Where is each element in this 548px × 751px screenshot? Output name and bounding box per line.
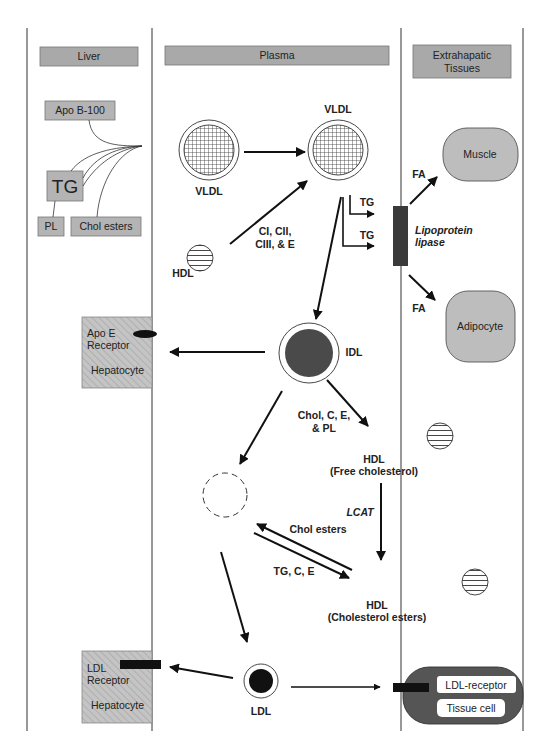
- arrow-fa-muscle: [410, 177, 437, 204]
- arrow-fa-adipocyte: [409, 275, 435, 300]
- svg-text:Tissue cell: Tissue cell: [446, 702, 495, 714]
- svg-text:lipase: lipase: [415, 236, 445, 248]
- svg-text:LDL: LDL: [251, 705, 272, 717]
- idl-transfer-label: Chol, C, E, & PL: [298, 409, 351, 434]
- svg-text:(Free cholesterol): (Free cholesterol): [330, 465, 418, 477]
- vldl-mature: VLDL: [308, 103, 368, 180]
- lcat-label: LCAT: [346, 506, 375, 518]
- lipoprotein-metabolism-diagram: Liver Plasma Extrahapatic Tissues Apo B-…: [0, 0, 548, 751]
- apo-transfer-label: CI, CII, CIII, & E: [255, 225, 295, 250]
- tg-box: TG: [47, 171, 83, 201]
- svg-text:(Cholesterol esters): (Cholesterol esters): [328, 611, 427, 623]
- svg-text:LDL-receptor: LDL-receptor: [445, 679, 507, 691]
- muscle-cell: Muscle: [443, 128, 518, 181]
- chol-esters-box: Chol esters: [71, 217, 141, 236]
- vldl-nascent: VLDL: [179, 120, 239, 197]
- arrow-dashed-to-ldl: [221, 552, 247, 642]
- svg-text:Hepatocyte: Hepatocyte: [91, 699, 144, 711]
- apoe-receptor-icon: [133, 330, 157, 338]
- column-header-extrahepatic: Extrahapatic Tissues: [413, 45, 511, 78]
- svg-text:TG: TG: [360, 196, 375, 208]
- arrow-ldl-to-hepatocyte: [170, 667, 233, 678]
- svg-text:Apo B-100: Apo B-100: [55, 104, 105, 116]
- ldl-receptor-icon: [120, 660, 161, 669]
- hdl-free-cholesterol: HDL (Free cholesterol): [330, 423, 453, 477]
- arrow-idl-to-dashed: [240, 391, 282, 464]
- svg-text:Receptor: Receptor: [87, 674, 130, 686]
- svg-text:Hepatocyte: Hepatocyte: [91, 364, 144, 376]
- ldl-particle: LDL: [244, 664, 278, 717]
- svg-text:Receptor: Receptor: [87, 339, 130, 351]
- hdl-donor: HDL: [172, 245, 213, 279]
- hdl-cholesterol-esters: HDL (Cholesterol esters): [328, 569, 488, 623]
- adipocyte-cell: Adipocyte: [446, 291, 515, 362]
- apoe-receptor-hepatocyte: Apo E Receptor Hepatocyte: [82, 317, 157, 388]
- svg-text:Lipoprotein: Lipoprotein: [415, 224, 473, 236]
- svg-text:HDL: HDL: [172, 267, 194, 279]
- dashed-particle: [203, 473, 247, 517]
- tissue-cell: LDL-receptor Tissue cell: [393, 667, 523, 724]
- svg-text:PL: PL: [45, 220, 58, 232]
- assembly-curves: [53, 120, 142, 217]
- svg-text:TG: TG: [360, 229, 375, 241]
- apo-b100-box: Apo B-100: [45, 101, 115, 120]
- svg-text:& PL: & PL: [312, 422, 337, 434]
- svg-text:Chol esters: Chol esters: [79, 220, 132, 232]
- svg-text:CIII, & E: CIII, & E: [255, 238, 295, 250]
- svg-text:IDL: IDL: [346, 346, 364, 358]
- column-header-liver: Liver: [40, 47, 138, 66]
- svg-text:Liver: Liver: [78, 50, 101, 62]
- ldl-receptor-hepatocyte: LDL Receptor Hepatocyte: [82, 651, 161, 723]
- svg-text:Chol, C, E,: Chol, C, E,: [298, 409, 351, 421]
- tg-release: TG TG: [343, 195, 374, 246]
- svg-text:Tissues: Tissues: [444, 62, 480, 74]
- chol-esters-transfer-label: Chol esters: [289, 523, 346, 535]
- svg-text:Extrahapatic: Extrahapatic: [433, 49, 491, 61]
- svg-text:VLDL: VLDL: [324, 103, 352, 115]
- idl-particle: IDL: [279, 323, 363, 383]
- tissue-ldl-receptor-icon: [393, 683, 429, 692]
- svg-text:Adipocyte: Adipocyte: [457, 320, 503, 332]
- svg-text:HDL: HDL: [366, 599, 388, 611]
- svg-text:Apo E: Apo E: [87, 327, 116, 339]
- fa-label-1: FA: [412, 168, 426, 180]
- column-header-plasma: Plasma: [165, 46, 389, 65]
- fa-label-2: FA: [412, 302, 426, 314]
- svg-text:Plasma: Plasma: [259, 49, 294, 61]
- lipoprotein-lipase: Lipoprotein lipase: [393, 206, 473, 266]
- svg-text:HDL: HDL: [363, 453, 385, 465]
- arrow-vldl-to-idl: [316, 197, 341, 319]
- tg-c-e-transfer-label: TG, C, E: [274, 565, 315, 577]
- svg-text:Muscle: Muscle: [463, 148, 496, 160]
- pl-box: PL: [38, 217, 64, 236]
- svg-text:VLDL: VLDL: [195, 185, 223, 197]
- svg-text:LDL: LDL: [87, 662, 106, 674]
- svg-text:CI, CII,: CI, CII,: [259, 225, 292, 237]
- svg-text:TG: TG: [52, 176, 78, 197]
